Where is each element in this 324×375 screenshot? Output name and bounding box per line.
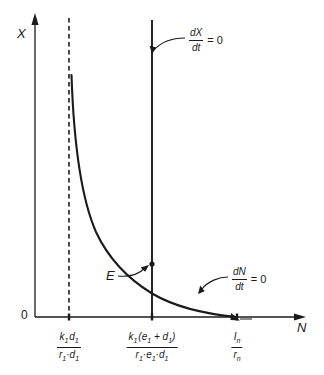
dn-dt-rhs: = 0 — [251, 274, 267, 285]
tick-equilibrium-numerator: k1 (e1 + d1) — [127, 331, 178, 347]
dn-dt-denominator: dt — [232, 279, 247, 293]
y-axis-label: X — [17, 27, 26, 40]
origin-label: 0 — [21, 309, 28, 321]
x-axis — [35, 313, 306, 320]
x-axis-label: N — [297, 321, 306, 334]
dx-dt-fraction: dX dt — [189, 27, 203, 54]
tick-asymptote-numerator: k1 d1 — [57, 331, 81, 347]
phase-plane-plot — [0, 0, 324, 375]
tick-asymptote-denominator: r1·d1 — [57, 347, 81, 364]
tick-capacity-numerator: In — [231, 331, 242, 347]
dx-dt-rhs: = 0 — [207, 35, 223, 46]
dx-dt-denominator: dt — [189, 40, 203, 54]
x-tick-label-equilibrium: k1 (e1 + d1) r1·e1·d1 — [127, 331, 178, 364]
tick-capacity-denominator: rn — [231, 347, 242, 364]
y-axis — [31, 13, 38, 317]
figure-canvas: X N 0 dX dt = 0 dN dt = 0 E k1 d1 r1·d1 … — [0, 0, 324, 375]
tick-equilibrium-denominator: r1·e1·d1 — [127, 347, 178, 364]
equilibrium-point-marker — [149, 261, 154, 266]
x-tick-label-asymptote: k1 d1 r1·d1 — [57, 331, 81, 364]
equilibrium-point-label: E — [106, 269, 115, 282]
dn-dt-leader-line — [198, 277, 228, 294]
dn-dt-numerator: dN — [232, 266, 247, 279]
dn-dt-fraction: dN dt — [232, 266, 247, 293]
x-tick-label-carrying-capacity: In rn — [231, 331, 242, 364]
dn-dt-isocline-annotation: dN dt = 0 — [232, 266, 266, 293]
dx-dt-leader-line — [150, 38, 185, 54]
dx-dt-numerator: dX — [189, 27, 203, 40]
dx-dt-isocline-annotation: dX dt = 0 — [189, 27, 223, 54]
